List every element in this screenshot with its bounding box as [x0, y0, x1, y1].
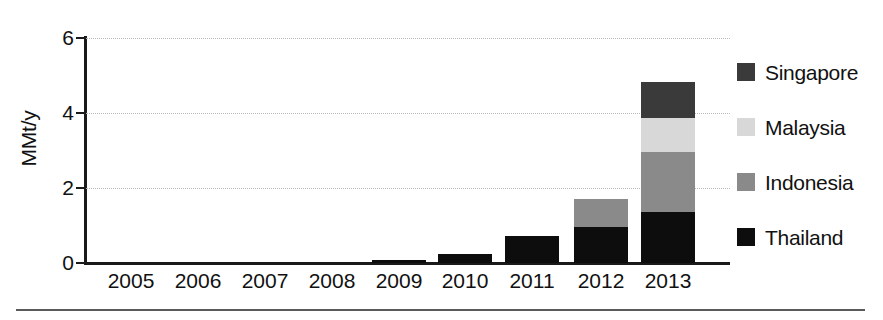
legend-item-singapore[interactable]: Singapore [737, 60, 858, 84]
bar-segment-thailand-2011[interactable] [505, 236, 559, 263]
y-axis-tick-label: 6 [48, 27, 74, 48]
legend-label: Indonesia [765, 172, 853, 193]
legend-item-malaysia[interactable]: Malaysia [737, 115, 845, 139]
bar-segment-thailand-2013[interactable] [641, 212, 695, 263]
legend-swatch-icon [737, 173, 755, 191]
bar-segment-thailand-2012[interactable] [574, 227, 628, 263]
legend-label: Malaysia [765, 117, 845, 138]
legend-item-thailand[interactable]: Thailand [737, 225, 843, 249]
x-axis-tick-label-2013: 2013 [623, 270, 713, 292]
y-axis-tick-labels: 0246 [40, 0, 74, 320]
y-axis-tick-label: 2 [48, 177, 74, 198]
y-axis-tick-0 [76, 262, 85, 265]
legend-swatch-icon [737, 118, 755, 136]
y-axis-title: MMt/y [18, 79, 39, 199]
bar-group-2009[interactable] [372, 260, 426, 263]
bar-segment-malaysia-2013[interactable] [641, 118, 695, 152]
bar-segment-indonesia-2013[interactable] [641, 152, 695, 212]
y-axis-tick-label: 0 [48, 252, 74, 273]
footer-divider [16, 309, 865, 311]
bar-group-2010[interactable] [438, 254, 492, 263]
bar-group-2012[interactable] [574, 199, 628, 263]
legend-label: Singapore [765, 62, 858, 83]
legend-label: Thailand [765, 227, 843, 248]
bar-group-2011[interactable] [505, 236, 559, 263]
gridline-4 [86, 113, 730, 114]
legend-swatch-icon [737, 228, 755, 246]
gridline-2 [86, 188, 730, 189]
legend-swatch-icon [737, 63, 755, 81]
bar-segment-thailand-2010[interactable] [438, 254, 492, 263]
chart-figure: MMt/y 0246 SingaporeMalaysiaIndonesiaTha… [0, 0, 883, 320]
gridline-6 [86, 38, 730, 39]
y-axis-tick-6 [76, 37, 85, 40]
y-axis-tick-2 [76, 187, 85, 190]
bar-segment-singapore-2013[interactable] [641, 82, 695, 118]
y-axis-tick-label: 4 [48, 102, 74, 123]
plot-area [86, 38, 730, 263]
y-axis-tick-4 [76, 112, 85, 115]
bar-segment-thailand-2009[interactable] [372, 260, 426, 263]
bar-segment-indonesia-2012[interactable] [574, 199, 628, 227]
legend-item-indonesia[interactable]: Indonesia [737, 170, 853, 194]
bar-group-2013[interactable] [641, 82, 695, 263]
